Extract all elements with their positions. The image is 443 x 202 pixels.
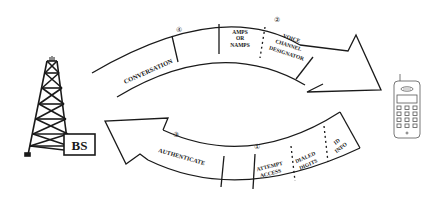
lower-arrow: [105, 112, 360, 189]
svg-text:OR: OR: [236, 35, 245, 41]
id-info-segment: ID INFO: [333, 137, 349, 154]
voice-channel-designator-segment: VOICE CHANNEL DESIGNATOR: [268, 32, 306, 61]
step-1-number: ①: [254, 143, 260, 151]
step-2-number: ②: [274, 16, 280, 24]
base-station-box: BS: [64, 134, 95, 155]
step-3-number: ③: [173, 131, 179, 139]
call-setup-diagram: BS ④ ② CONVERSATION AMPS OR NAMPS VOICE …: [0, 0, 443, 202]
authenticate-label: AUTHENTICATE: [158, 147, 206, 166]
amps-segment: AMPS OR NAMPS: [230, 29, 250, 48]
svg-text:NAMPS: NAMPS: [230, 42, 250, 48]
mobile-phone-icon: [394, 74, 420, 138]
base-station-label: BS: [72, 138, 88, 153]
step-4-number: ④: [176, 26, 182, 34]
cell-tower-icon: [25, 56, 69, 156]
dialed-digits-segment: DIALED DIGITS: [294, 150, 318, 171]
